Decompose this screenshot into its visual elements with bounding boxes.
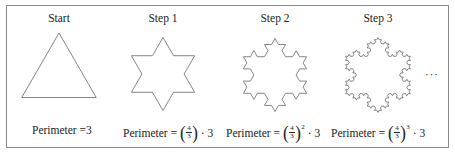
- caption-suffix: · 3: [305, 127, 320, 139]
- caption-suffix: · 3: [410, 127, 425, 139]
- fraction: 4 3: [186, 125, 192, 140]
- step-title-3: Step 3: [338, 12, 418, 24]
- denominator: 3: [187, 133, 191, 140]
- caption-suffix: · 3: [198, 127, 213, 139]
- step-title-start: Start: [19, 12, 99, 24]
- caption-prefix: Perimeter =: [123, 127, 180, 139]
- caption-prefix: Perimeter =: [226, 127, 283, 139]
- exponent: 3: [406, 123, 410, 131]
- right-paren: ): [192, 123, 198, 143]
- left-paren: (: [388, 123, 394, 143]
- caption-step-2: Perimeter = ( 4 3 ) 2 · 3: [226, 124, 320, 141]
- left-paren: (: [283, 123, 289, 143]
- fraction: 4 3: [289, 125, 295, 140]
- exponent: 2: [301, 123, 305, 131]
- fraction: 4 3: [394, 125, 400, 140]
- caption-value: 3: [86, 124, 92, 136]
- denominator: 3: [290, 133, 294, 140]
- caption-prefix: Perimeter =: [32, 124, 86, 136]
- step-title-1: Step 1: [123, 12, 203, 24]
- right-paren: ): [295, 123, 301, 143]
- caption-step-1: Perimeter = ( 4 3 ) · 3: [123, 124, 213, 141]
- continuation-ellipsis: ···: [425, 68, 439, 80]
- caption-start: Perimeter = 3: [32, 124, 92, 136]
- caption-prefix: Perimeter =: [331, 127, 388, 139]
- denominator: 3: [395, 133, 399, 140]
- caption-step-3: Perimeter = ( 4 3 ) 3 · 3: [331, 124, 425, 141]
- left-paren: (: [180, 123, 186, 143]
- right-paren: ): [400, 123, 406, 143]
- step-title-2: Step 2: [235, 12, 315, 24]
